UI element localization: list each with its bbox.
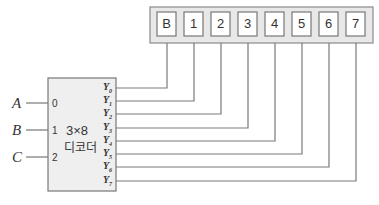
input-signal-A: A [12,96,21,111]
input-pin-1: 1 [52,126,58,136]
output-label-Y4: Y4 [103,135,112,147]
input-pin-0: 0 [52,99,58,109]
input-wires [26,103,48,157]
output-label-Y5: Y5 [103,148,112,160]
input-signal-B: B [12,123,21,138]
output-wires [116,43,356,181]
output-label-Y7: Y7 [103,175,112,187]
output-label-Y2: Y2 [103,108,112,120]
decoder-title-size: 3×8 [66,124,88,137]
input-signal-C: C [12,150,22,165]
output-label-Y6: Y6 [103,161,112,173]
display-cell-B: B [157,17,176,30]
output-label-Y0: Y0 [103,82,112,94]
input-pin-2: 2 [52,153,58,163]
display-cell-3: 3 [238,17,257,30]
display-cell-2: 2 [211,17,230,30]
display-cell-1: 1 [184,17,203,30]
output-label-Y3: Y3 [103,122,112,134]
display-cell-7: 7 [346,17,365,30]
output-label-Y1: Y1 [103,95,112,107]
display-cell-5: 5 [292,17,311,30]
display-cell-4: 4 [265,17,284,30]
decoder-diagram: B 1 2 3 4 5 6 7 A B C 0 1 2 3×8 디코더 Y0 Y… [0,0,379,205]
display-cell-6: 6 [319,17,338,30]
decoder-title-name: 디코더 [64,142,97,154]
